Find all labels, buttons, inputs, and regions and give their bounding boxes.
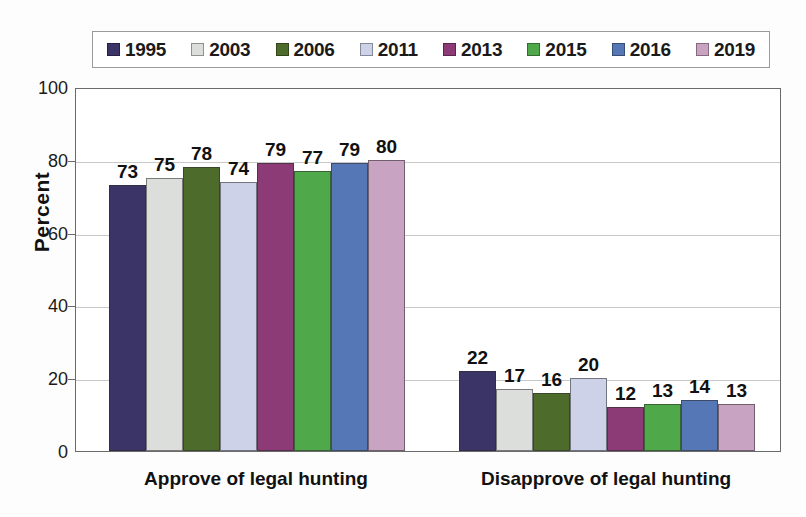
legend-item-2006[interactable]: 2006	[276, 39, 335, 61]
legend-swatch-icon	[107, 43, 120, 56]
x-category-label-approve: Approve of legal hunting	[96, 468, 416, 490]
bar-2015[interactable]	[294, 171, 331, 451]
legend-item-1995[interactable]: 1995	[107, 39, 166, 61]
bar-value-label: 20	[564, 354, 613, 376]
legend-item-label: 2011	[378, 39, 418, 61]
y-tick-label: 0	[22, 442, 68, 463]
y-tick-mark	[68, 306, 75, 307]
y-tick-label: 20	[22, 369, 68, 390]
plot-area: 73757874797779802217162012131413	[75, 88, 781, 452]
bar-2011[interactable]	[220, 182, 257, 451]
legend-item-label: 2013	[461, 39, 502, 61]
bar-chart: 19952003200620112013201520162019 Percent…	[0, 0, 806, 517]
legend-swatch-icon	[527, 43, 540, 56]
bar-2003[interactable]	[496, 389, 533, 451]
legend-item-2011[interactable]: 2011	[360, 39, 418, 61]
legend-item-label: 2003	[209, 39, 250, 61]
bar-2019[interactable]	[718, 404, 755, 451]
legend-swatch-icon	[191, 43, 204, 56]
bar-2006[interactable]	[183, 167, 220, 451]
legend-item-2019[interactable]: 2019	[696, 39, 755, 61]
legend-swatch-icon	[443, 43, 456, 56]
y-axis-title: Percent	[30, 152, 54, 272]
bar-group-approve: 7375787479777980	[109, 89, 405, 451]
bar-2006[interactable]	[533, 393, 570, 451]
y-tick-mark	[68, 234, 75, 235]
legend-item-label: 2015	[545, 39, 586, 61]
y-tick-mark	[68, 161, 75, 162]
bar-2015[interactable]	[644, 404, 681, 451]
legend-item-2013[interactable]: 2013	[443, 39, 502, 61]
legend-item-label: 1995	[125, 39, 166, 61]
y-tick-label: 100	[22, 78, 68, 99]
chart-legend: 19952003200620112013201520162019	[92, 31, 770, 68]
legend-swatch-icon	[276, 43, 289, 56]
y-tick-label: 40	[22, 296, 68, 317]
bar-2003[interactable]	[146, 178, 183, 451]
bar-2019[interactable]	[368, 160, 405, 451]
legend-item-label: 2006	[294, 39, 335, 61]
bar-1995[interactable]	[109, 185, 146, 451]
bar-2016[interactable]	[331, 163, 368, 451]
bar-value-label: 80	[362, 136, 411, 158]
legend-item-2016[interactable]: 2016	[612, 39, 671, 61]
bar-2016[interactable]	[681, 400, 718, 451]
bar-2013[interactable]	[257, 163, 294, 451]
legend-item-2003[interactable]: 2003	[191, 39, 250, 61]
legend-swatch-icon	[696, 43, 709, 56]
bar-2013[interactable]	[607, 407, 644, 451]
x-category-label-disapprove: Disapprove of legal hunting	[446, 468, 766, 490]
legend-item-label: 2016	[630, 39, 671, 61]
y-tick-mark	[68, 379, 75, 380]
legend-swatch-icon	[612, 43, 625, 56]
legend-item-label: 2019	[714, 39, 755, 61]
legend-item-2015[interactable]: 2015	[527, 39, 586, 61]
bar-group-disapprove: 2217162012131413	[459, 89, 755, 451]
legend-swatch-icon	[360, 43, 373, 56]
bar-value-label: 13	[712, 380, 761, 402]
